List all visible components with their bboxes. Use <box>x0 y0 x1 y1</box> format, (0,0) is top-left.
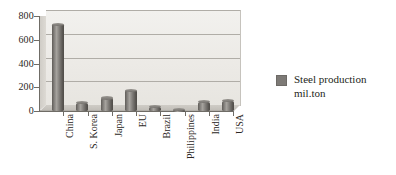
legend-swatch-steel-production <box>276 75 287 86</box>
x-label-eu: EU <box>135 114 145 127</box>
x-axis-category-labels: ChinaS. KoreaJapanEUBrazilPhilippinesInd… <box>0 114 250 174</box>
bar-cap-6 <box>198 100 210 103</box>
x-label-philippines: Philippines <box>183 114 193 159</box>
legend-label-line1: Steel production <box>294 72 366 86</box>
x-label-brazil: Brazil <box>159 114 169 138</box>
bar-japan <box>101 98 113 111</box>
chart-legend: Steel production mil.ton <box>276 72 394 100</box>
x-label-china: China <box>62 114 72 138</box>
bar-cap-3 <box>125 89 137 92</box>
bar-cap-2 <box>101 96 113 99</box>
steel-production-bar-chart: 8006004002000 ChinaS. KoreaJapanEUBrazil… <box>0 0 396 175</box>
bar-series-steel-production <box>0 0 250 120</box>
x-label-india: India <box>208 114 218 135</box>
x-label-usa: USA <box>232 114 242 134</box>
legend-label-line2: mil.ton <box>294 86 366 100</box>
plot-area: 8006004002000 ChinaS. KoreaJapanEUBrazil… <box>0 0 250 120</box>
bar-cap-0 <box>52 23 64 26</box>
bar-eu <box>125 90 137 111</box>
bar-china <box>52 24 64 111</box>
legend-label-steel-production: Steel production mil.ton <box>294 72 366 100</box>
x-label-japan: Japan <box>111 114 121 137</box>
x-label-s-korea: S. Korea <box>86 114 96 149</box>
bar-usa <box>222 101 234 111</box>
